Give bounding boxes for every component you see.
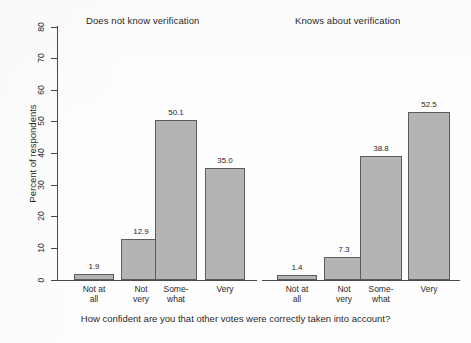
xtick-left-not-very-line1: Not (134, 284, 147, 294)
bar-right-not-at-all[interactable] (277, 275, 317, 280)
xtick-left-not-at-all: Not at all (71, 285, 117, 304)
xtick-left-very: Very (202, 285, 248, 295)
xtick-left-somewhat-line2: what (167, 294, 185, 304)
y-tick-label-30: 30 (36, 173, 46, 197)
y-tick-label-40: 40 (36, 141, 46, 165)
y-tick-20 (51, 216, 57, 217)
xtick-left-not-at-all-line2: all (90, 294, 99, 304)
bar-left-not-at-all[interactable] (74, 274, 114, 280)
y-tick-label-80: 80 (36, 15, 46, 39)
bar-value-left-somewhat: 50.1 (155, 108, 197, 117)
y-tick-70 (51, 58, 57, 59)
bar-value-right-very: 52.5 (408, 100, 450, 109)
y-tick-40 (51, 153, 57, 154)
bar-value-left-very: 35.0 (205, 156, 245, 165)
bar-chart-figure: Does not know verification Knows about v… (0, 0, 471, 343)
bar-right-not-very[interactable] (324, 257, 364, 280)
xtick-right-not-at-all-line1: Not at (286, 284, 309, 294)
xtick-left-not-very-line2: very (133, 294, 149, 304)
y-tick-label-10: 10 (36, 236, 46, 260)
bar-right-somewhat[interactable] (360, 156, 402, 280)
y-axis-line (57, 26, 58, 280)
bar-right-very[interactable] (408, 112, 450, 280)
x-axis-line-left (57, 280, 257, 281)
y-tick-label-70: 70 (36, 46, 46, 70)
bar-value-right-not-at-all: 1.4 (277, 263, 317, 272)
y-tick-10 (51, 248, 57, 249)
bar-value-left-not-at-all: 1.9 (74, 262, 114, 271)
bar-value-right-not-very: 7.3 (324, 245, 364, 254)
xtick-left-not-at-all-line1: Not at (83, 284, 106, 294)
y-tick-label-60: 60 (36, 78, 46, 102)
x-axis-line-right (262, 280, 460, 281)
bar-left-very[interactable] (205, 168, 245, 280)
y-tick-60 (51, 90, 57, 91)
panel-title-right: Knows about verification (295, 15, 400, 26)
chart-caption: How confident are you that other votes w… (0, 313, 471, 324)
xtick-right-not-very-line1: Not (337, 284, 350, 294)
y-tick-label-20: 20 (36, 204, 46, 228)
xtick-right-not-at-all: Not at all (274, 285, 320, 304)
xtick-right-very: Very (406, 285, 452, 295)
xtick-left-somewhat: Some- what (153, 285, 199, 304)
y-tick-80 (51, 27, 57, 28)
bar-value-right-somewhat: 38.8 (360, 144, 402, 153)
xtick-left-somewhat-line1: Some- (163, 284, 188, 294)
y-tick-30 (51, 185, 57, 186)
xtick-right-somewhat-line2: what (372, 294, 390, 304)
xtick-right-not-very-line2: very (336, 294, 352, 304)
y-tick-label-50: 50 (36, 109, 46, 133)
bar-left-somewhat[interactable] (155, 120, 197, 280)
y-tick-label-0: 0 (36, 268, 46, 292)
y-tick-50 (51, 121, 57, 122)
panel-title-left: Does not know verification (86, 15, 200, 26)
xtick-right-not-at-all-line2: all (293, 294, 302, 304)
xtick-right-somewhat-line1: Some- (368, 284, 393, 294)
xtick-right-somewhat: Some- what (358, 285, 404, 304)
